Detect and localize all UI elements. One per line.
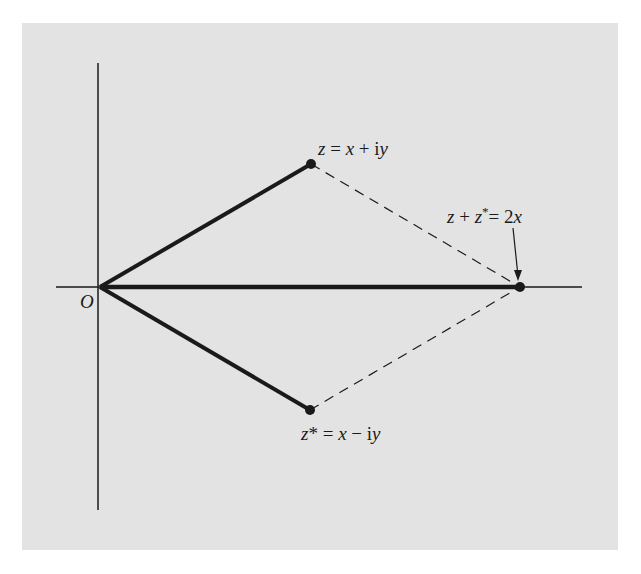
dashed-line-lower	[310, 287, 520, 410]
point-z	[306, 159, 316, 169]
label-z: z = x + iy	[318, 139, 388, 158]
point-sum	[515, 282, 525, 292]
label-sum: z + z*= 2x	[447, 205, 522, 226]
vector-z	[100, 164, 311, 287]
argand-diagram	[0, 0, 641, 574]
vector-zstar	[100, 287, 310, 410]
origin-label: O	[80, 292, 94, 311]
arrow-line	[513, 228, 518, 276]
arrow-head-icon	[514, 270, 522, 281]
label-zstar: z* = x − iy	[301, 424, 381, 443]
point-zstar	[305, 405, 315, 415]
